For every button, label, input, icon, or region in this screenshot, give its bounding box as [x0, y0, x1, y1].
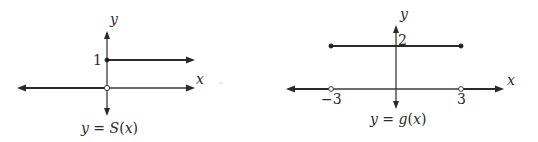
x-axis-right-arrow-icon — [495, 86, 504, 93]
open-circle-origin — [104, 85, 109, 90]
closed-dot-0-1 — [105, 58, 109, 62]
s-one-right-arrow-icon — [186, 57, 195, 64]
caption-close: ) — [421, 111, 426, 127]
caption-fn: g — [399, 111, 408, 127]
y-axis-down-arrow-icon — [104, 108, 110, 116]
closed-dot-3-2 — [459, 44, 463, 48]
y-tick-label-2: 2 — [398, 32, 407, 48]
caption-eq: = — [89, 120, 110, 136]
caption-S: y = S(x) — [80, 120, 138, 136]
graph-g: y x 2 −3 3 y = g(x) — [286, 6, 515, 127]
caption-fn: S — [110, 120, 120, 136]
y-tick-label-1: 1 — [93, 52, 102, 68]
closed-dot-neg3-2 — [329, 44, 333, 48]
y-axis-label: y — [399, 6, 409, 22]
caption-g: y = g(x) — [369, 111, 426, 127]
caption-close: ) — [133, 120, 138, 136]
caption-x: x — [413, 111, 421, 127]
graphs-figure: y x 1 y = S(x) y x 2 −3 3 y — [0, 0, 538, 142]
caption-eq: = — [378, 111, 399, 127]
x-axis-left-arrow-icon — [17, 85, 26, 92]
y-axis-label: y — [109, 11, 119, 27]
x-axis-label: x — [196, 71, 204, 87]
x-axis-left-arrow-icon — [286, 86, 295, 93]
y-axis-up-arrow-icon — [104, 31, 110, 39]
x-axis-label: x — [507, 72, 515, 88]
caption-x: x — [125, 120, 133, 136]
x-tick-label-3: 3 — [457, 91, 466, 107]
y-axis-down-arrow-icon — [393, 101, 399, 109]
graph-S: y x 1 y = S(x) — [17, 11, 222, 136]
x-tick-label-neg3: −3 — [321, 91, 342, 107]
x-axis-right-arrow-icon — [186, 85, 195, 92]
